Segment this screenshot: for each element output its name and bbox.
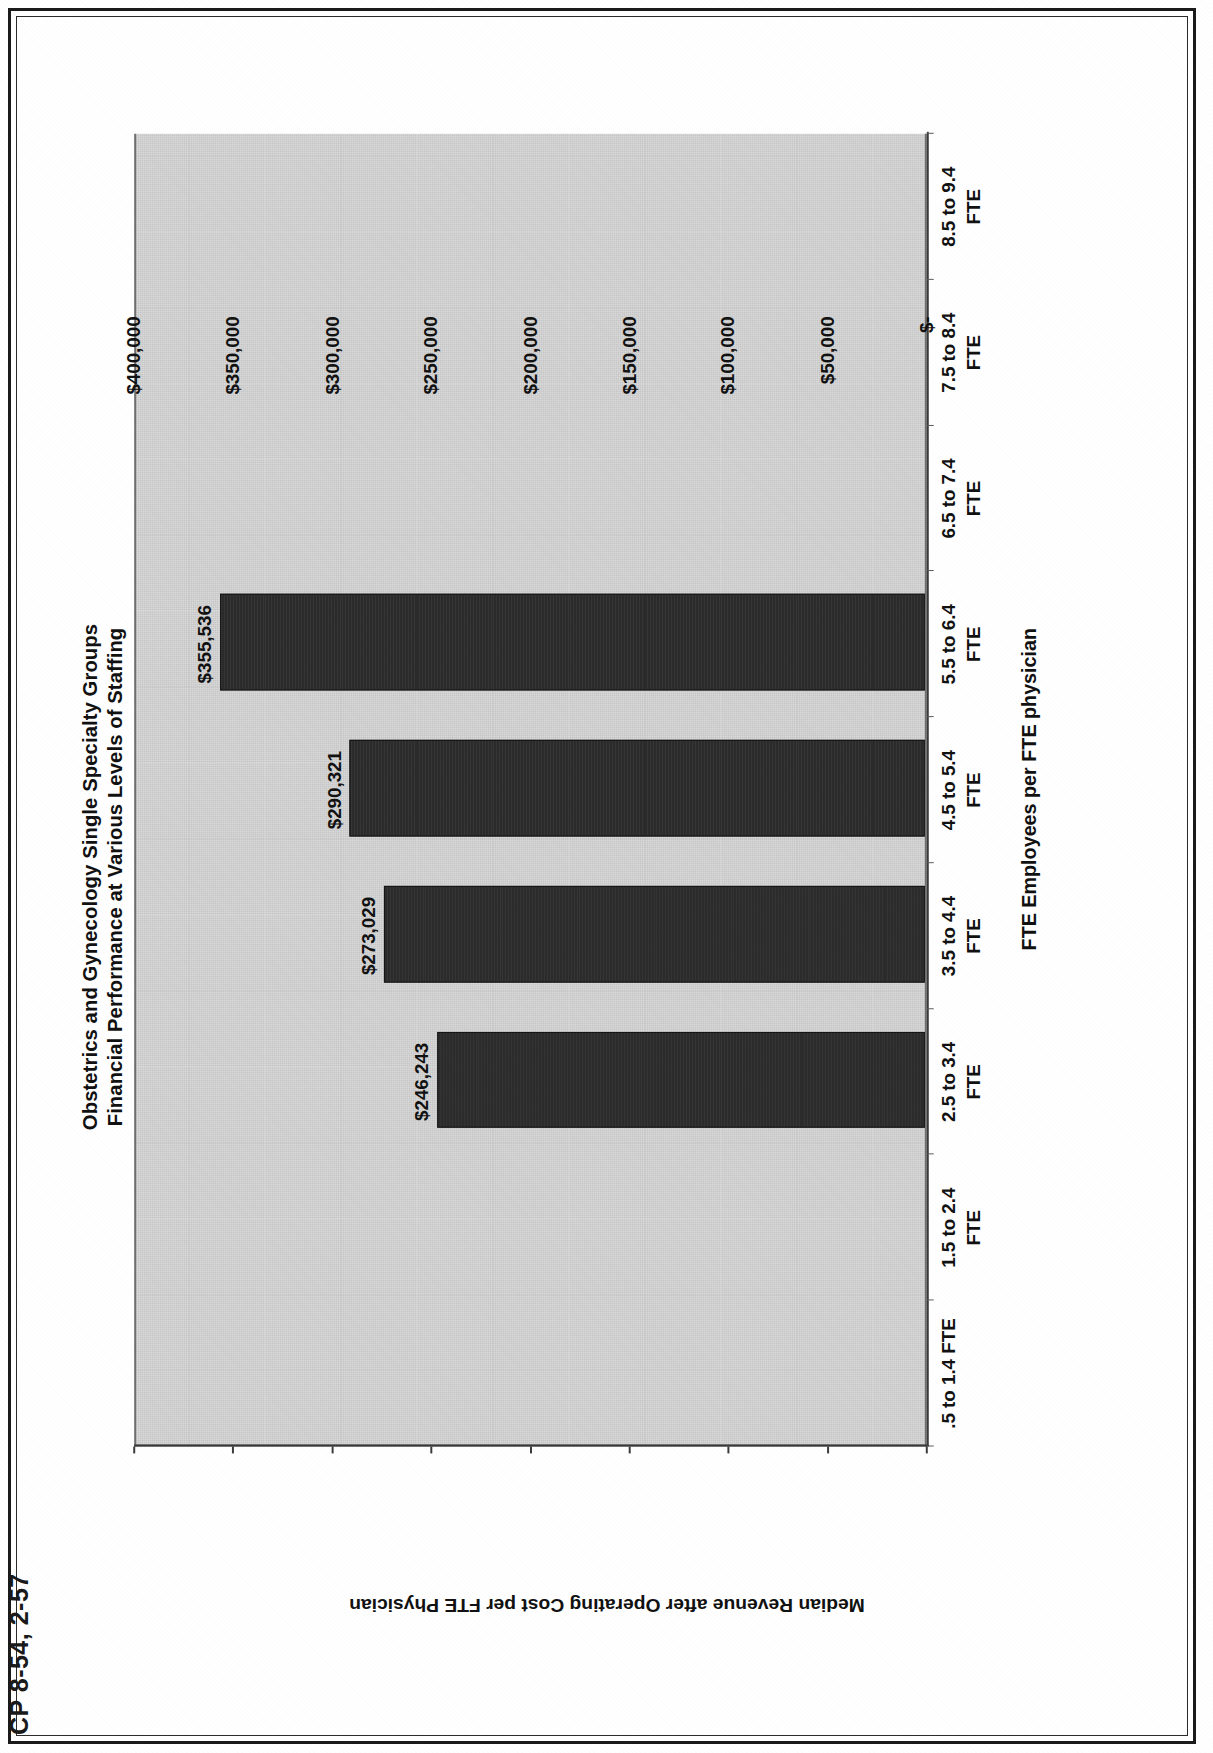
category-axis-tick [926, 862, 933, 863]
page-footer-text: CP 8-54, 2-57 [5, 1573, 34, 1735]
value-axis-tick-label: $200,000 [519, 316, 541, 394]
rotated-chart-stage: Obstetrics and Gynecology Single Special… [69, 67, 1145, 1686]
value-axis-tick [529, 1446, 531, 1453]
value-axis-tick-label: $100,000 [717, 316, 739, 394]
category-axis-tick [926, 424, 933, 425]
category-axis-label: 3.5 to 4.4FTE [937, 863, 986, 1009]
bar-value-label: $246,243 [411, 1042, 433, 1120]
value-axis-tick-label: $300,000 [321, 316, 343, 394]
bar [349, 740, 924, 836]
category-axis-label-line: 7.5 to 8.4 [937, 279, 961, 425]
value-axis-tick-label: $50,000 [816, 316, 838, 384]
chart-title-block: Obstetrics and Gynecology Single Special… [76, 67, 128, 1686]
category-axis-label-line: FTE [962, 863, 986, 1009]
bar [220, 594, 924, 690]
value-axis-tick [331, 1446, 333, 1453]
value-axis-tick [133, 1446, 135, 1453]
category-axis-label-line: FTE [962, 133, 986, 279]
category-axis-tick [926, 132, 933, 133]
category-axis-tick [926, 570, 933, 571]
category-axis-label-line: FTE [962, 571, 986, 717]
category-axis-label-line: 2.5 to 3.4 [937, 1008, 961, 1154]
category-axis-label-line: 1.5 to 2.4 [937, 1154, 961, 1300]
chart-title-line1: Obstetrics and Gynecology Single Special… [76, 67, 102, 1686]
value-axis-title: Median Revenue after Operating Cost per … [212, 1594, 1002, 1617]
scanned-page: Obstetrics and Gynecology Single Special… [0, 0, 1213, 1753]
bar-value-label: $355,536 [194, 605, 216, 683]
category-axis-label-line: 5.5 to 6.4 [937, 571, 961, 717]
value-axis-tick [727, 1446, 729, 1453]
category-axis-tick [926, 1153, 933, 1154]
value-axis-tick-label: $400,000 [123, 316, 145, 394]
chart-title-line2: Financial Performance at Various Levels … [102, 67, 128, 1686]
category-axis-label: 6.5 to 7.4FTE [937, 425, 986, 571]
category-axis-label-line: FTE [962, 717, 986, 863]
category-axis-label: 7.5 to 8.4FTE [937, 279, 986, 425]
category-axis-label: 8.5 to 9.4FTE [937, 133, 986, 279]
bar-value-label: $290,321 [323, 751, 345, 829]
category-axis-label-line: 8.5 to 9.4 [937, 133, 961, 279]
bar-chart: Obstetrics and Gynecology Single Special… [69, 67, 1145, 1686]
value-axis-tick [925, 1446, 927, 1453]
value-axis-tick [232, 1446, 234, 1453]
category-axis-label-line: FTE [962, 1154, 986, 1300]
value-axis-tick-label: $- [915, 316, 937, 333]
category-axis-label: 2.5 to 3.4FTE [937, 1008, 986, 1154]
value-axis-tick [430, 1446, 432, 1453]
value-axis-tick-label: $150,000 [618, 316, 640, 394]
category-axis-label-line: .5 to 1.4 FTE [937, 1300, 961, 1446]
category-axis-label-line: FTE [962, 1008, 986, 1154]
category-axis-title: FTE Employees per FTE physician [1018, 131, 1041, 1446]
bar [383, 885, 924, 981]
category-axis-label: 1.5 to 2.4FTE [937, 1154, 986, 1300]
category-axis-label-line: FTE [962, 425, 986, 571]
category-axis-tick [926, 278, 933, 279]
value-axis-tick [826, 1446, 828, 1453]
category-axis-label-line: 6.5 to 7.4 [937, 425, 961, 571]
category-axis-label-line: 3.5 to 4.4 [937, 863, 961, 1009]
category-axis-tick [926, 1299, 933, 1300]
category-axis-tick [926, 716, 933, 717]
bar [436, 1031, 924, 1127]
value-axis-tick-label: $250,000 [420, 316, 442, 394]
category-axis-tick [926, 1445, 933, 1446]
category-axis-label-line: 4.5 to 5.4 [937, 717, 961, 863]
category-axis-label: 4.5 to 5.4FTE [937, 717, 986, 863]
category-axis-label: 5.5 to 6.4FTE [937, 571, 986, 717]
value-axis-tick [628, 1446, 630, 1453]
category-axis-tick [926, 1007, 933, 1008]
bar-value-label: $273,029 [358, 896, 380, 974]
category-axis-label-line: FTE [962, 279, 986, 425]
value-axis-tick-label: $350,000 [222, 316, 244, 394]
category-axis-label: .5 to 1.4 FTE [937, 1300, 961, 1446]
